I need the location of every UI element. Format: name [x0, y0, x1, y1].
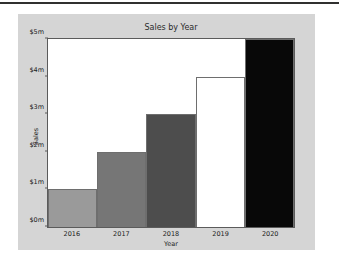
bar-2019: [196, 77, 245, 227]
x-tick-label-2018: 2018: [146, 230, 196, 238]
y-tick-label: $3m: [29, 104, 48, 111]
y-tick-mark: [45, 75, 48, 76]
bar-2016: [48, 189, 97, 227]
bar-series: [48, 39, 294, 227]
bar-2017: [97, 152, 146, 227]
y-tick-mark: [45, 226, 48, 227]
bar-2020: [245, 39, 294, 227]
y-tick-label: $4m: [29, 66, 48, 73]
y-tick-mark: [45, 38, 48, 39]
chart-plot-area: $0m$1m$2m$3m$4m$5m: [47, 38, 295, 228]
y-tick-mark: [45, 188, 48, 189]
chart-title: Sales by Year: [47, 23, 295, 33]
x-axis-ticks: 20162017201820192020: [47, 230, 295, 238]
x-tick-label-2019: 2019: [196, 230, 246, 238]
x-tick-label-2020: 2020: [245, 230, 295, 238]
page-top-rule: [0, 2, 339, 4]
x-axis-label: Year: [47, 240, 295, 248]
y-tick-label: $1m: [29, 179, 48, 186]
bar-2018: [146, 114, 195, 227]
x-tick-label-2017: 2017: [97, 230, 147, 238]
y-tick-mark: [45, 113, 48, 114]
y-tick-label: $5m: [29, 29, 48, 36]
chart-figure: Sales by Year $0m$1m$2m$3m$4m$5m 2016201…: [18, 14, 315, 250]
y-tick-label: $0m: [29, 217, 48, 224]
y-tick-mark: [45, 150, 48, 151]
y-axis-label: Sales: [33, 117, 40, 157]
x-tick-label-2016: 2016: [47, 230, 97, 238]
